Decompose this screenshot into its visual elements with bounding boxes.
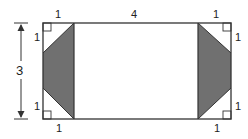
diagram-canvas: 3 4 1 1 1 1 1 1 1 1 [0, 0, 248, 139]
label-tr-horizontal: 1 [213, 8, 219, 20]
label-tl-vertical: 1 [34, 31, 40, 43]
label-br-vertical: 1 [235, 100, 241, 112]
height-label: 3 [16, 63, 23, 78]
label-bl-vertical: 1 [34, 100, 40, 112]
label-tl-horizontal: 1 [55, 8, 61, 20]
right-angle-marker-tl [43, 23, 51, 31]
arrow-down-icon [18, 111, 25, 118]
label-tr-vertical: 1 [235, 31, 241, 43]
right-angle-marker-bl [43, 111, 51, 119]
label-bl-horizontal: 1 [56, 122, 62, 134]
label-br-horizontal: 1 [214, 122, 220, 134]
right-angle-marker-br [223, 111, 231, 119]
arrow-up-icon [18, 24, 25, 31]
width-label: 4 [131, 8, 137, 20]
right-angle-marker-tr [223, 23, 231, 31]
